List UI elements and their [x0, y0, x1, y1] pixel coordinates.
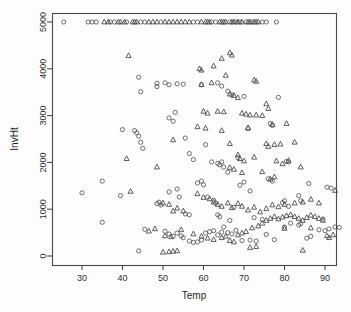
data-point-circle: [220, 230, 224, 234]
data-point-circle: [139, 140, 143, 144]
data-point-triangle: [203, 125, 208, 130]
data-point-triangle: [197, 66, 202, 71]
data-point-circle: [222, 225, 226, 229]
data-point-circle: [203, 143, 207, 147]
data-point-triangle: [195, 124, 200, 129]
data-point-circle: [323, 229, 327, 233]
data-point-circle: [118, 194, 122, 198]
data-point-triangle: [248, 112, 253, 117]
data-point-triangle: [260, 113, 265, 118]
data-point-circle: [120, 128, 124, 132]
data-point-circle: [137, 249, 141, 253]
data-point-circle: [94, 20, 98, 24]
data-point-triangle: [266, 106, 271, 111]
data-point-triangle: [250, 225, 255, 230]
data-point-triangle: [274, 158, 279, 163]
axis-labels-layer: 30405060708090010002000300040005000TempI…: [9, 12, 331, 301]
data-point-triangle: [167, 202, 172, 207]
data-point-triangle: [244, 229, 249, 234]
data-point-triangle: [201, 195, 206, 200]
data-point-circle: [100, 220, 104, 224]
x-tick-label: 70: [239, 273, 249, 283]
data-point-circle: [207, 230, 211, 234]
data-point-circle: [252, 216, 256, 220]
data-point-triangle: [179, 227, 184, 232]
data-point-triangle: [199, 82, 204, 87]
data-point-triangle: [296, 216, 301, 221]
data-point-triangle: [219, 204, 224, 209]
data-point-circle: [201, 183, 205, 187]
data-point-triangle: [235, 201, 240, 206]
data-point-circle: [216, 81, 220, 85]
data-point-triangle: [254, 244, 259, 249]
data-point-triangle: [244, 111, 249, 116]
data-point-triangle: [239, 110, 244, 115]
data-point-circle: [228, 218, 232, 222]
data-point-circle: [62, 20, 66, 24]
data-point-circle: [264, 232, 268, 236]
data-point-circle: [137, 134, 141, 138]
data-point-circle: [210, 160, 214, 164]
data-point-triangle: [231, 239, 236, 244]
data-point-triangle: [272, 174, 277, 179]
data-point-triangle: [270, 202, 275, 207]
data-point-triangle: [124, 156, 129, 161]
data-point-circle: [264, 20, 268, 24]
data-point-triangle: [195, 191, 200, 196]
data-point-circle: [80, 191, 84, 195]
data-point-circle: [297, 194, 301, 198]
data-point-triangle: [308, 225, 313, 230]
data-point-circle: [240, 238, 244, 242]
data-point-triangle: [246, 125, 251, 130]
data-point-triangle: [316, 200, 321, 205]
data-point-triangle: [199, 233, 204, 238]
data-point-triangle: [215, 109, 220, 114]
data-point-triangle: [175, 205, 180, 210]
data-point-triangle: [154, 19, 159, 24]
data-point-triangle: [201, 109, 206, 114]
data-point-triangle: [312, 214, 317, 219]
data-point-triangle: [227, 165, 232, 170]
data-point-circle: [329, 186, 333, 190]
data-point-triangle: [300, 248, 305, 253]
data-point-triangle: [223, 73, 228, 78]
y-axis-title: InvHt: [9, 127, 20, 151]
data-point-triangle: [235, 95, 240, 100]
data-point-triangle: [288, 212, 293, 217]
data-point-circle: [191, 240, 195, 244]
data-point-circle: [86, 20, 90, 24]
data-point-triangle: [221, 109, 226, 114]
data-point-circle: [137, 75, 141, 79]
y-tick-label: 5000: [38, 12, 48, 32]
data-point-triangle: [211, 237, 216, 242]
data-point-triangle: [248, 245, 253, 250]
data-point-triangle: [266, 144, 271, 149]
data-point-triangle: [211, 63, 216, 68]
data-point-triangle: [171, 137, 176, 142]
data-point-triangle: [264, 206, 269, 211]
data-point-triangle: [331, 232, 336, 237]
data-point-triangle: [175, 248, 180, 253]
data-point-circle: [212, 229, 216, 233]
data-point-circle: [309, 234, 313, 238]
data-point-triangle: [181, 208, 186, 213]
data-point-triangle: [187, 19, 192, 24]
data-point-circle: [139, 90, 143, 94]
data-point-triangle: [161, 249, 166, 254]
data-point-triangle: [272, 142, 277, 147]
data-point-circle: [307, 181, 311, 185]
data-point-circle: [177, 195, 181, 199]
data-point-circle: [274, 20, 278, 24]
data-point-triangle: [227, 141, 232, 146]
data-point-circle: [337, 225, 341, 229]
y-tick-label: 3000: [38, 106, 48, 126]
data-point-circle: [90, 20, 94, 24]
y-tick-label: 2000: [38, 152, 48, 172]
x-tick-label: 60: [198, 273, 208, 283]
data-point-circle: [175, 82, 179, 86]
data-point-circle: [305, 236, 309, 240]
data-point-circle: [254, 239, 258, 243]
data-point-circle: [195, 181, 199, 185]
x-axis-title: Temp: [182, 290, 207, 301]
scatter-plot-figure: 30405060708090010002000300040005000TempI…: [0, 0, 351, 312]
